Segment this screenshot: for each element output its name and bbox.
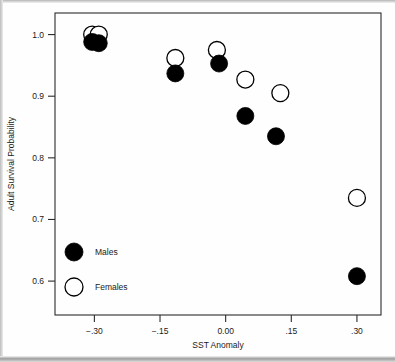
x-axis-ticks: −.30−.150.00.15.30 [86, 315, 363, 336]
y-tick-label: 1.0 [32, 30, 44, 40]
legend-label-females: Females [95, 282, 128, 292]
legend: Males Females [65, 243, 128, 296]
legend-marker-females [65, 278, 83, 296]
data-point-male [90, 35, 107, 52]
data-point-male [237, 107, 254, 124]
series-females-points [84, 26, 366, 206]
y-tick-label: 0.7 [32, 214, 44, 224]
y-axis-title: Adult Survival Probability [6, 116, 16, 211]
y-tick-label: 0.6 [32, 276, 44, 286]
data-point-male [167, 65, 184, 82]
figure-container: 0.60.70.80.91.0 −.30−.150.00.15.30 SST A… [0, 0, 395, 362]
legend-label-males: Males [95, 247, 118, 257]
x-axis-title: SST Anomaly [192, 340, 244, 350]
x-tick-label: −.15 [152, 326, 169, 336]
data-point-male [348, 268, 365, 285]
data-point-male [211, 55, 228, 72]
x-tick-label: .15 [285, 326, 297, 336]
x-tick-label: −.30 [86, 326, 103, 336]
data-point-male [267, 128, 284, 145]
data-point-female [272, 85, 289, 102]
x-tick-label: 0.00 [217, 326, 234, 336]
y-tick-label: 0.8 [32, 153, 44, 163]
data-point-female [237, 71, 254, 88]
legend-marker-males [65, 243, 83, 261]
scatter-plot: 0.60.70.80.91.0 −.30−.150.00.15.30 SST A… [0, 0, 395, 362]
data-point-female [167, 49, 184, 66]
y-axis-ticks: 0.60.70.80.91.0 [32, 30, 55, 287]
series-males-points [84, 33, 366, 284]
data-point-female [348, 189, 365, 206]
x-tick-label: .30 [351, 326, 363, 336]
y-tick-label: 0.9 [32, 91, 44, 101]
